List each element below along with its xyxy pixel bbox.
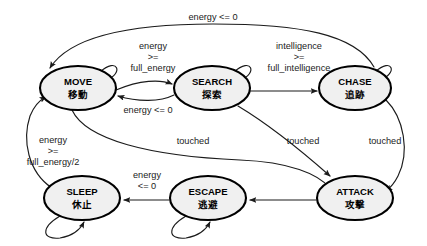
edge-label-chase-to-move: energy <= 0 <box>188 12 237 22</box>
edge-search-to-move <box>118 95 174 100</box>
state-label-en-chase: CHASE <box>338 76 371 87</box>
edge-label-sleep-to-move-line2: >= <box>48 146 59 156</box>
state-node-search[interactable]: SEARCH 探索 <box>174 66 250 110</box>
state-label-en-escape: ESCAPE <box>188 186 227 197</box>
edge-label-search-to-chase-line1: intelligence <box>276 41 322 51</box>
state-label-jp-chase: 追跡 <box>345 89 365 100</box>
edge-label-search-to-attack: touched <box>287 136 320 146</box>
state-label-jp-attack: 攻撃 <box>345 199 365 210</box>
edge-label-search-to-chase-line2: >= <box>294 52 305 62</box>
state-label-jp-escape: 逃避 <box>198 199 218 210</box>
state-label-jp-move: 移動 <box>68 89 88 100</box>
state-node-escape[interactable]: ESCAPE 逃避 <box>170 176 246 220</box>
edge-label-escape-to-sleep-line2: <= 0 <box>138 181 156 191</box>
edge-label-move-to-search-line1: energy <box>139 41 167 51</box>
state-machine-diagram: MOVE 移動 SEARCH 探索 CHASE 追跡 SLEEP 休止 <box>0 0 427 246</box>
state-node-sleep[interactable]: SLEEP 休止 <box>44 176 120 220</box>
state-label-en-move: MOVE <box>64 76 92 87</box>
state-diagram-canvas: MOVE 移動 SEARCH 探索 CHASE 追跡 SLEEP 休止 <box>0 0 427 246</box>
edge-label-chase-to-attack: touched <box>369 136 402 146</box>
state-label-en-search: SEARCH <box>192 76 232 87</box>
edge-label-escape-to-sleep-line1: energy <box>133 170 161 180</box>
edge-label-move-to-search-line2: >= <box>148 52 159 62</box>
edge-label-search-to-move: energy <= 0 <box>123 105 172 115</box>
state-label-en-attack: ATTACK <box>336 186 374 197</box>
edge-label-move-to-attack: touched <box>177 136 210 146</box>
state-node-attack[interactable]: ATTACK 攻撃 <box>317 176 393 220</box>
edge-move-to-search <box>116 81 172 90</box>
edge-label-move-to-search-line3: full_energy <box>131 63 176 73</box>
edge-chase-to-move <box>50 24 374 68</box>
state-label-jp-sleep: 休止 <box>71 199 92 210</box>
state-label-en-sleep: SLEEP <box>66 186 98 197</box>
edge-label-sleep-to-move-line3: full_energy/2 <box>27 157 80 167</box>
nodes-layer: MOVE 移動 SEARCH 探索 CHASE 追跡 SLEEP 休止 <box>40 66 393 220</box>
state-label-jp-search: 探索 <box>202 89 222 100</box>
edge-label-sleep-to-move-line1: energy <box>39 135 67 145</box>
state-node-move[interactable]: MOVE 移動 <box>40 66 116 110</box>
edge-label-search-to-chase-line3: full_intelligence <box>268 63 331 73</box>
